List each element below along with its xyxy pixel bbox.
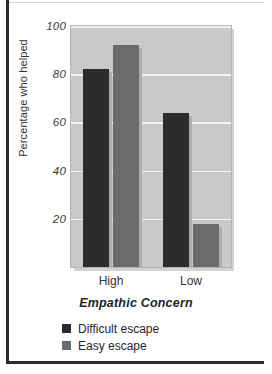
bars-layer [71,26,231,267]
bar [113,45,139,267]
bar [193,224,219,267]
bar [163,113,189,267]
y-axis-title: Percentage who helped [17,23,29,173]
plot-area [70,25,232,268]
legend: Difficult escape Easy escape [62,320,159,354]
figure-frame-bottom-border [6,361,264,364]
x-axis-title: Empathic Concern [0,296,272,310]
y-tick-label: 40 [34,165,66,177]
x-axis-tick-labels: High Low [70,274,232,292]
x-tick-label-low: Low [161,274,221,288]
y-tick-label: 80 [34,68,66,80]
legend-swatch-icon [62,324,71,333]
legend-label: Easy escape [78,339,147,353]
legend-label: Difficult escape [78,322,159,336]
legend-item: Difficult escape [62,320,159,337]
legend-item: Easy escape [62,337,159,354]
legend-swatch-icon [62,341,71,350]
y-axis-tick-labels: 20 40 60 80 100 [30,25,66,268]
figure: Percentage who helped 20 40 60 80 100 Hi… [0,0,272,374]
y-tick-label: 60 [34,116,66,128]
y-tick-label: 20 [34,213,66,225]
bar [83,69,109,267]
x-tick-label-high: High [81,274,141,288]
figure-frame-top-hairline [9,2,264,3]
y-tick-label: 100 [34,20,66,32]
